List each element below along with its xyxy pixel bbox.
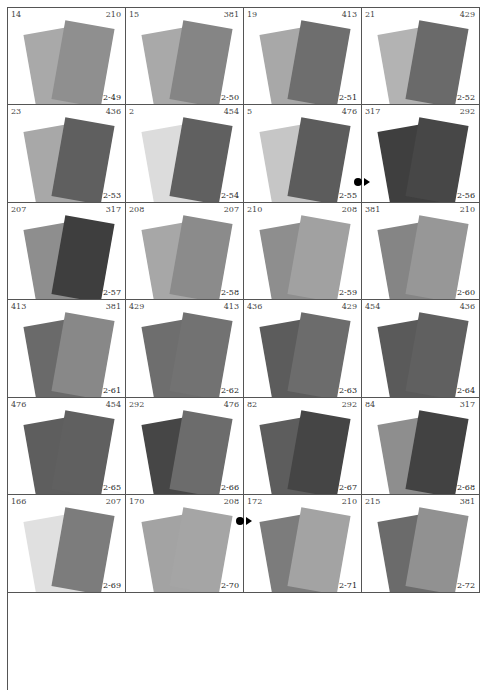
swatch-code: 2-60 [457, 288, 475, 297]
swatch-cell: 3812102-60 [362, 203, 480, 300]
swatch-code: 2-64 [457, 386, 475, 395]
right-number: 436 [106, 107, 121, 116]
right-number: 208 [224, 497, 239, 506]
left-number: 5 [247, 107, 252, 116]
right-number: 317 [106, 205, 121, 214]
swatch-cell: 2073172-57 [8, 203, 126, 300]
left-number: 23 [11, 107, 21, 116]
swatch-code: 2-49 [103, 93, 121, 102]
left-number: 429 [129, 302, 144, 311]
right-number: 429 [342, 302, 357, 311]
swatch-cell: 822922-67 [244, 398, 362, 495]
left-number: 454 [365, 302, 380, 311]
right-number: 317 [460, 400, 475, 409]
swatch-cell: 1702082-70 [126, 495, 244, 592]
pointer-marker-2 [236, 517, 252, 525]
dot-icon [354, 178, 362, 186]
swatch-code: 2-71 [339, 581, 357, 590]
arrow-right-icon [364, 178, 370, 186]
swatch-cell: 24542-54 [126, 105, 244, 202]
left-number: 82 [247, 400, 257, 409]
swatch-code: 2-68 [457, 483, 475, 492]
swatch-cell: 234362-53 [8, 105, 126, 202]
right-number: 413 [224, 302, 239, 311]
left-number: 84 [365, 400, 375, 409]
right-number: 413 [342, 10, 357, 19]
swatch-code: 2-55 [339, 191, 357, 200]
left-number: 476 [11, 400, 26, 409]
swatch-cell: 843172-68 [362, 398, 480, 495]
swatch-cell: 2153812-72 [362, 495, 480, 592]
right-number: 436 [460, 302, 475, 311]
left-number: 292 [129, 400, 144, 409]
swatch-code: 2-70 [221, 581, 239, 590]
swatch-code: 2-59 [339, 288, 357, 297]
swatch-code: 2-53 [103, 191, 121, 200]
swatch-cell: 153812-50 [126, 8, 244, 105]
right-number: 292 [342, 400, 357, 409]
swatch-cell: 4364292-63 [244, 300, 362, 397]
arrow-right-icon [246, 517, 252, 525]
right-number: 381 [460, 497, 475, 506]
left-number: 14 [11, 10, 21, 19]
swatch-cell: 4133812-61 [8, 300, 126, 397]
swatch-code: 2-66 [221, 483, 239, 492]
swatch-code: 2-50 [221, 93, 239, 102]
left-number: 2 [129, 107, 134, 116]
right-number: 210 [106, 10, 121, 19]
left-number: 208 [129, 205, 144, 214]
right-number: 207 [224, 205, 239, 214]
right-number: 292 [460, 107, 475, 116]
left-number: 166 [11, 497, 26, 506]
swatch-code: 2-72 [457, 581, 475, 590]
left-number: 436 [247, 302, 262, 311]
left-number: 21 [365, 10, 375, 19]
right-number: 454 [106, 400, 121, 409]
right-number: 207 [106, 497, 121, 506]
swatch-cell: 1662072-69 [8, 495, 126, 592]
left-number: 172 [247, 497, 262, 506]
swatch-grid: 142102-49153812-50194132-51214292-522343… [7, 7, 480, 690]
swatch-cell: 214292-52 [362, 8, 480, 105]
swatch-cell: 4544362-64 [362, 300, 480, 397]
swatch-cell: 2102082-59 [244, 203, 362, 300]
left-number: 170 [129, 497, 144, 506]
left-number: 19 [247, 10, 257, 19]
swatch-code: 2-52 [457, 93, 475, 102]
right-number: 381 [224, 10, 239, 19]
swatch-code: 2-67 [339, 483, 357, 492]
dot-icon [236, 517, 244, 525]
swatch-cell: 2924762-66 [126, 398, 244, 495]
swatch-code: 2-69 [103, 581, 121, 590]
swatch-cell: 4764542-65 [8, 398, 126, 495]
left-number: 413 [11, 302, 26, 311]
right-number: 210 [460, 205, 475, 214]
right-number: 208 [342, 205, 357, 214]
right-number: 381 [106, 302, 121, 311]
left-number: 381 [365, 205, 380, 214]
swatch-cell: 3172922-56 [362, 105, 480, 202]
right-number: 210 [342, 497, 357, 506]
swatch-cell: 142102-49 [8, 8, 126, 105]
pointer-marker-1 [354, 178, 370, 186]
left-number: 207 [11, 205, 26, 214]
right-number: 429 [460, 10, 475, 19]
swatch-cell: 4294132-62 [126, 300, 244, 397]
swatch-code: 2-56 [457, 191, 475, 200]
swatch-code: 2-65 [103, 483, 121, 492]
swatch-code: 2-54 [221, 191, 239, 200]
swatch-code: 2-57 [103, 288, 121, 297]
right-number: 476 [342, 107, 357, 116]
swatch-code: 2-58 [221, 288, 239, 297]
swatch-cell: 2082072-58 [126, 203, 244, 300]
left-number: 215 [365, 497, 380, 506]
swatch-code: 2-63 [339, 386, 357, 395]
left-number: 210 [247, 205, 262, 214]
swatch-code: 2-51 [339, 93, 357, 102]
right-number: 476 [224, 400, 239, 409]
swatch-cell: 1722102-71 [244, 495, 362, 592]
swatch-cell: 54762-55 [244, 105, 362, 202]
swatch-cell: 194132-51 [244, 8, 362, 105]
left-number: 317 [365, 107, 380, 116]
swatch-code: 2-61 [103, 386, 121, 395]
